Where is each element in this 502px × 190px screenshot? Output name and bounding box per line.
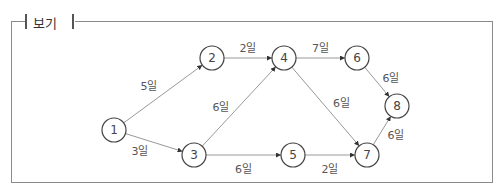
node-label: 2 xyxy=(208,51,216,65)
node-label: 3 xyxy=(190,148,198,162)
edge-label: 6일 xyxy=(333,96,350,110)
edge-label: 2일 xyxy=(322,162,339,176)
node-label: 1 xyxy=(110,123,118,137)
edge-label: 6일 xyxy=(383,71,400,85)
edge-label: 3일 xyxy=(132,144,149,158)
edge-label: 6일 xyxy=(213,100,230,114)
edge-1-2 xyxy=(124,65,203,123)
edge-label: 2일 xyxy=(240,41,257,55)
node-label: 6 xyxy=(353,51,361,65)
edge-label: 7일 xyxy=(312,41,329,55)
node-label: 5 xyxy=(289,148,297,162)
edge-label: 5일 xyxy=(141,79,158,93)
network-diagram: 5일3일2일6일6일7일6일2일6일6일 12345678 xyxy=(0,0,502,190)
edge-label: 6일 xyxy=(388,128,405,142)
edge-label: 6일 xyxy=(235,162,252,176)
node-label: 7 xyxy=(363,148,371,162)
node-label: 4 xyxy=(280,51,288,65)
node-label: 8 xyxy=(393,99,401,113)
